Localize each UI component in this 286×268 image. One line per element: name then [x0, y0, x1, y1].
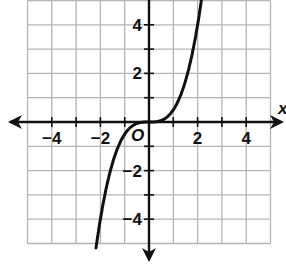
function-graph: −4−22442−2−4 x O	[0, 0, 286, 268]
x-tick-label: −2	[91, 129, 110, 148]
origin-label: O	[131, 126, 144, 145]
y-tick-label: −2	[123, 162, 142, 181]
x-tick-label: −4	[42, 129, 62, 148]
x-tick-label: 2	[193, 129, 202, 148]
y-tick-label: 4	[133, 16, 143, 35]
y-tick-label: 2	[133, 64, 142, 83]
y-tick-label: −4	[123, 210, 143, 229]
x-axis-label: x	[277, 99, 286, 118]
x-tick-label: 4	[241, 129, 251, 148]
